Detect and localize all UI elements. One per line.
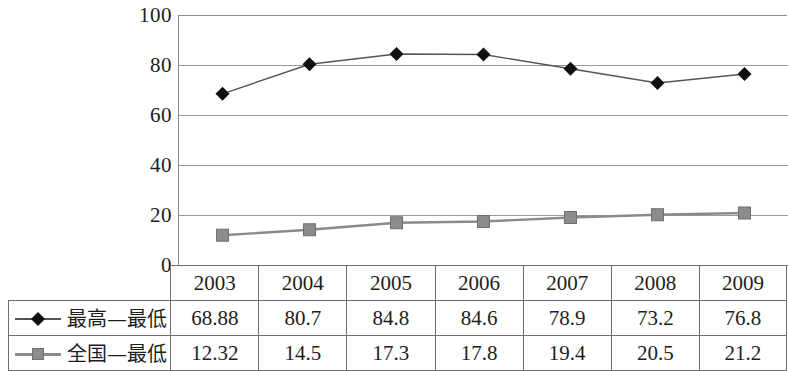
- column-header-2003: 2003: [171, 266, 259, 301]
- legend-row-national-minus-lowest: 全国—最低: [9, 336, 171, 371]
- legend-swatch-square: [15, 347, 61, 361]
- cell-row2-2005: 17.3: [347, 336, 435, 371]
- legend-swatch-graphic: [15, 312, 61, 326]
- cell-row1-2008: 73.2: [611, 301, 699, 336]
- data-point-2004: [303, 57, 317, 71]
- cell-row2-2004: 14.5: [259, 336, 347, 371]
- cell-row2-2003: 12.32: [171, 336, 259, 371]
- data-point-2006: [478, 216, 490, 228]
- legend-label-national-minus-lowest: 全国—最低: [67, 342, 167, 366]
- data-point-2003: [216, 87, 230, 101]
- y-tick-100: 100: [110, 5, 172, 26]
- data-point-2007: [565, 212, 577, 224]
- cell-row1-2006: 84.6: [435, 301, 523, 336]
- series-markers-highest-minus-lowest: [216, 47, 752, 101]
- diamond-marker-icon: [31, 312, 45, 326]
- legend-row-highest-minus-lowest: 最高—最低: [9, 301, 171, 336]
- data-point-2003: [217, 229, 229, 241]
- cell-row2-2009: 21.2: [699, 336, 786, 371]
- data-point-2009: [739, 207, 751, 219]
- legend-swatch-diamond: [15, 312, 61, 326]
- y-tick-80: 80: [110, 55, 172, 76]
- cell-row2-2006: 17.8: [435, 336, 523, 371]
- cell-row2-2007: 19.4: [523, 336, 611, 371]
- data-point-2006: [477, 48, 491, 62]
- square-marker-icon: [32, 348, 44, 360]
- y-tick-60: 60: [110, 105, 172, 126]
- plot-area: [178, 15, 787, 265]
- data-point-2005: [390, 47, 404, 61]
- cell-row2-2008: 20.5: [611, 336, 699, 371]
- table-row: 最高—最低 68.88 80.7 84.8 84.6 78.9 73.2 76.…: [9, 301, 787, 336]
- cell-row1-2007: 78.9: [523, 301, 611, 336]
- table-header-row: 2003 2004 2005 2006 2007 2008 2009: [9, 266, 787, 301]
- data-point-2008: [651, 76, 665, 90]
- cell-row1-2009: 76.8: [699, 301, 786, 336]
- column-header-2008: 2008: [611, 266, 699, 301]
- column-header-2004: 2004: [259, 266, 347, 301]
- y-tick-20: 20: [110, 205, 172, 226]
- table-row: 全国—最低 12.32 14.5 17.3 17.8 19.4 20.5 21.…: [9, 336, 787, 371]
- column-header-2009: 2009: [699, 266, 786, 301]
- table-corner-cell: [9, 266, 171, 301]
- cell-row1-2004: 80.7: [259, 301, 347, 336]
- data-table: 2003 2004 2005 2006 2007 2008 2009 最高—最低: [8, 265, 787, 371]
- legend-swatch-graphic: [15, 347, 61, 361]
- series-markers-national-minus-lowest: [217, 207, 751, 241]
- data-point-2005: [391, 217, 403, 229]
- column-header-2005: 2005: [347, 266, 435, 301]
- data-point-2007: [564, 62, 578, 76]
- column-header-2007: 2007: [523, 266, 611, 301]
- data-point-2004: [304, 224, 316, 236]
- legend-label-highest-minus-lowest: 最高—最低: [67, 307, 167, 331]
- chart-plot-region: 100 80 60 40 20 0: [0, 0, 787, 268]
- series-canvas: [179, 16, 788, 266]
- column-header-2006: 2006: [435, 266, 523, 301]
- cell-row1-2005: 84.8: [347, 301, 435, 336]
- data-point-2009: [738, 67, 752, 81]
- cell-row1-2003: 68.88: [171, 301, 259, 336]
- y-tick-40: 40: [110, 155, 172, 176]
- y-axis: 100 80 60 40 20 0: [110, 0, 172, 268]
- data-point-2008: [652, 209, 664, 221]
